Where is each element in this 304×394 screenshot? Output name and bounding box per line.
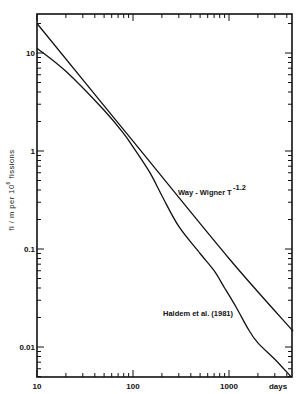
haldem-label: Haldem et al. (1981): [163, 309, 234, 318]
y-label-post: fissions: [7, 150, 16, 182]
plot-border: [37, 14, 292, 377]
plot-frame: [37, 14, 292, 377]
y-label-text: fi / m per 106 fissions: [5, 150, 16, 231]
way-wigner-curve: [37, 24, 293, 332]
y-tick-label: 0.1: [24, 245, 36, 254]
x-axis-unit-label: days: [269, 382, 288, 391]
axis-ticks: [37, 14, 292, 377]
chart-svg: 101001000days1010.10.01 Way - WignerT-1.…: [0, 0, 304, 394]
y-tick-label: 10: [26, 49, 35, 58]
x-tick-label: 1000: [220, 382, 238, 391]
haldem-curve: [37, 48, 291, 376]
way-wigner-exponent: -1.2: [233, 183, 246, 192]
y-label-pre: fi / m per 10: [7, 184, 16, 230]
y-axis-label: fi / m per 106 fissions: [5, 150, 16, 231]
x-tick-label: 10: [33, 382, 42, 391]
curve-annotations: Way - WignerT-1.2Haldem et al. (1981): [163, 183, 246, 318]
axis-tick-labels: 101001000days1010.10.01: [19, 49, 287, 391]
y-label-group: fi / m per 106 fissions: [5, 150, 16, 231]
y-tick-label: 0.01: [19, 343, 35, 352]
data-curves: [37, 24, 293, 377]
y-tick-label: 1: [31, 147, 36, 156]
way-wigner-T-label: T: [227, 188, 232, 197]
x-tick-label: 100: [126, 382, 140, 391]
way-wigner-label: Way - Wigner: [178, 188, 225, 197]
